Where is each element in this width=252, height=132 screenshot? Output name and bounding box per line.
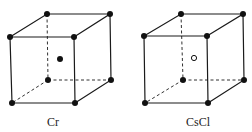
unit-cell-diagram: Cr CsCl bbox=[0, 0, 252, 132]
top-face-edges bbox=[144, 14, 243, 36]
body-center-atom-filled bbox=[57, 56, 63, 62]
side-face-edges bbox=[75, 14, 111, 103]
cscl-label: CsCl bbox=[186, 115, 211, 129]
side-face-edges bbox=[208, 14, 244, 103]
corner-atom bbox=[44, 11, 50, 17]
hidden-edge bbox=[12, 80, 48, 103]
corner-atom bbox=[72, 100, 78, 106]
corner-atom bbox=[180, 77, 186, 83]
corner-atom bbox=[241, 77, 247, 83]
corner-atom bbox=[108, 77, 114, 83]
hidden-edge bbox=[181, 14, 183, 80]
cr-label: Cr bbox=[47, 115, 59, 129]
corner-atom bbox=[45, 77, 51, 83]
corner-atom bbox=[107, 11, 113, 17]
corner-atom bbox=[141, 33, 147, 39]
hidden-edge bbox=[47, 14, 48, 80]
front-face bbox=[10, 37, 75, 103]
cscl-unit-cell: CsCl bbox=[141, 11, 247, 129]
corner-atom bbox=[240, 11, 246, 17]
corner-atom bbox=[142, 100, 148, 106]
top-face-edges bbox=[10, 14, 110, 37]
corner-atom bbox=[71, 34, 77, 40]
corner-atom bbox=[9, 100, 15, 106]
cr-unit-cell: Cr bbox=[7, 11, 114, 129]
front-face bbox=[144, 36, 208, 103]
body-center-atom-open bbox=[191, 55, 196, 60]
corner-atom bbox=[204, 33, 210, 39]
corner-atom bbox=[178, 11, 184, 17]
corner-atom bbox=[7, 34, 13, 40]
corner-atom bbox=[205, 100, 211, 106]
hidden-edge bbox=[145, 80, 183, 103]
